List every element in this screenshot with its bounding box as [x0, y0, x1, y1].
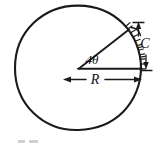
- chord-label: C: [140, 36, 150, 51]
- geometry-figure: 4θ R C: [0, 0, 160, 143]
- circle-outline-group: [15, 6, 141, 130]
- angle-label: 4θ: [86, 52, 100, 67]
- radius-arrow-left: [63, 77, 71, 83]
- radius-label: R: [90, 72, 100, 87]
- radius-dimension-group: R: [63, 72, 142, 87]
- scan-smudge: [29, 140, 38, 143]
- geometry-figure-canvas: 4θ R C: [0, 0, 160, 143]
- scan-smudge: [18, 140, 25, 143]
- hatch-tick: [140, 59, 145, 60]
- circle-outline: [15, 6, 141, 130]
- scan-edge-artifact: [18, 140, 38, 143]
- hatch-tick: [131, 30, 136, 33]
- hatch-tick: [140, 56, 145, 57]
- hatch-tick: [126, 23, 130, 27]
- hatch-tick: [133, 35, 138, 37]
